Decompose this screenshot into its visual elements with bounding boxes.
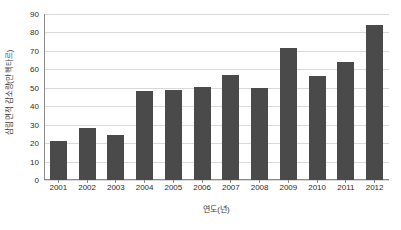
bar[interactable] [79,128,96,180]
bar-slot [274,14,303,180]
bar-slot [102,14,131,180]
x-axis-tick-label: 2001 [44,183,73,197]
y-axis-title-label: 삼림 면적 감소량(만 헥타르) [4,50,15,135]
bar-slot [245,14,274,180]
x-axis-tick-label: 2012 [360,183,389,197]
bar[interactable] [309,76,326,180]
x-axis-tick-label: 2008 [245,183,274,197]
bar[interactable] [222,75,239,180]
y-axis-tick-label: 40 [30,102,39,111]
y-axis-tick-labels: 0102030405060708090 [18,14,42,180]
bar[interactable] [194,87,211,180]
y-axis-tick-label: 30 [30,120,39,129]
x-axis-tick-label: 2010 [303,183,332,197]
x-axis-title: 연도(년) [44,203,389,214]
bar[interactable] [366,25,383,180]
x-axis-tick-labels: 2001200220032004200520062007200820092010… [44,183,389,197]
bar[interactable] [50,141,67,180]
bar[interactable] [251,88,268,180]
y-axis-tick-label: 20 [30,139,39,148]
bar-slot [360,14,389,180]
y-axis-tick-label: 80 [30,28,39,37]
x-axis-tick-label: 2011 [332,183,361,197]
bar-slot [159,14,188,180]
bar[interactable] [337,62,354,180]
bar[interactable] [280,48,297,180]
bar[interactable] [107,135,124,180]
x-axis-tick-label: 2007 [217,183,246,197]
bars-layer [44,14,389,180]
bar[interactable] [165,90,182,180]
x-axis-tick-label: 2005 [159,183,188,197]
plot-area [44,14,389,180]
x-axis-tick-label: 2006 [188,183,217,197]
y-axis-tick-label: 90 [30,10,39,19]
x-axis-tick-label: 2003 [102,183,131,197]
bar-chart: 삼림 면적 감소량(만 헥타르) 0102030405060708090 200… [0,0,401,230]
bar-slot [303,14,332,180]
y-axis-tick-label: 0 [35,176,39,185]
y-axis-tick-label: 60 [30,65,39,74]
x-axis-tick-label: 2004 [130,183,159,197]
bar-slot [130,14,159,180]
bar-slot [332,14,361,180]
x-axis-tick-label: 2002 [73,183,102,197]
y-axis-tick-label: 10 [30,157,39,166]
y-axis-tick-label: 50 [30,83,39,92]
bar-slot [217,14,246,180]
bar-slot [44,14,73,180]
bar-slot [73,14,102,180]
y-axis-tick-label: 70 [30,46,39,55]
bar[interactable] [136,91,153,180]
x-axis-tick-label: 2009 [274,183,303,197]
bar-slot [188,14,217,180]
y-axis-title: 삼림 면적 감소량(만 헥타르) [0,0,18,185]
